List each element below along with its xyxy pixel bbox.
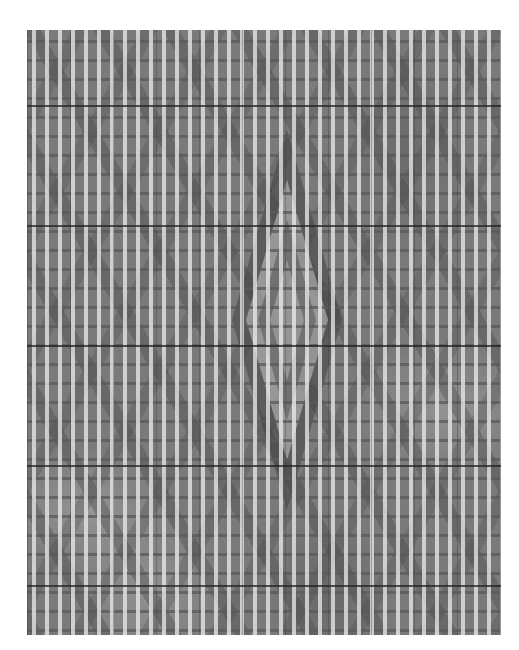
warp-lines	[27, 30, 501, 635]
horizontal-seam	[27, 585, 501, 587]
horizontal-seam	[27, 105, 501, 107]
horizontal-seam	[27, 345, 501, 347]
horizontal-seam	[27, 225, 501, 227]
woven-fabric-image	[27, 30, 501, 635]
horizontal-seam	[27, 465, 501, 467]
